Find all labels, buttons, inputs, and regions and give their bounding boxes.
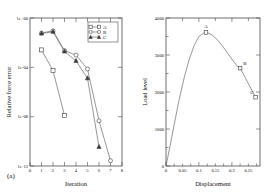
x-tick-label: 8 — [121, 168, 124, 173]
series-a-line — [42, 50, 65, 116]
x-tick-label: 0.25 — [244, 168, 253, 173]
convergence-plot: 0 1 2 3 4 5 6 7 8 1e+00 1e-04 1e-08 1e-1… — [0, 0, 135, 192]
x-tick-label: 7 — [109, 168, 112, 173]
x-tick-label: 0 — [29, 168, 32, 173]
y-tick-label: 3000 — [155, 53, 165, 58]
x-tick-label: 1 — [40, 168, 43, 173]
y-ticks-b — [166, 18, 260, 166]
series-c-line — [42, 32, 100, 147]
y-tick-label: 4000 — [155, 16, 165, 21]
x-tick-label: 3 — [63, 168, 66, 173]
point-label-a: A — [204, 24, 208, 29]
series-b-line — [42, 31, 111, 161]
y-tick-label: 2000 — [155, 90, 165, 95]
y-tick-label: 1000 — [155, 127, 165, 132]
y-tick-label: 1e+00 — [16, 16, 28, 21]
series-b-markers — [40, 29, 113, 163]
panel-b: 0 0.05 0.1 0.15 0.2 0.25 — [135, 0, 271, 192]
x-ticks-b — [166, 18, 257, 166]
y-tick-label: 1e-12 — [18, 164, 29, 169]
plot-frame-b — [166, 18, 260, 166]
x-tick-label: 2 — [52, 168, 55, 173]
figure-container: 0 1 2 3 4 5 6 7 8 1e+00 1e-04 1e-08 1e-1… — [0, 0, 271, 192]
x-tick-label: 0.15 — [211, 168, 220, 173]
legend-a: A B C — [88, 22, 118, 42]
x-tick-label: 4 — [75, 168, 78, 173]
x-tick-label: 0.1 — [196, 168, 202, 173]
y-tick-label: 1e-04 — [18, 65, 29, 70]
x-tick-label: 5 — [86, 168, 89, 173]
y-axis-title-b: Load level — [141, 78, 148, 106]
point-label-b: B — [243, 61, 247, 66]
y-tick-label: 1e-08 — [18, 114, 29, 119]
x-tick-label: 0.05 — [178, 168, 187, 173]
load-curve — [166, 33, 256, 166]
x-tick-label: 6 — [98, 168, 101, 173]
load-displacement-plot: 0 0.05 0.1 0.15 0.2 0.25 — [135, 0, 271, 192]
caption-a: (a) — [7, 172, 15, 180]
x-axis-title-b: Displacement — [195, 180, 231, 187]
x-tick-label: 0.2 — [229, 168, 235, 173]
y-axis-title-a: Relative force error — [5, 66, 12, 118]
x-tick-label: 0 — [165, 168, 168, 173]
x-axis-title-a: Iteration — [65, 180, 88, 187]
panel-a: 0 1 2 3 4 5 6 7 8 1e+00 1e-04 1e-08 1e-1… — [0, 0, 135, 192]
